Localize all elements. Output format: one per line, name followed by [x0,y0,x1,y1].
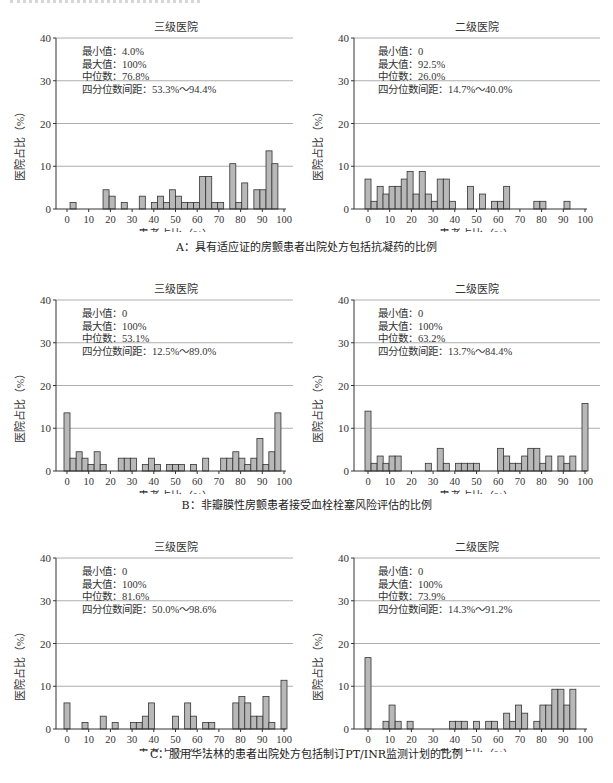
histogram-bar [139,196,145,209]
y-tick-label: 20 [338,118,350,130]
histogram-bar [166,465,172,471]
chart-b-tertiary: 三级医院最小值：0最大值：100%中位数：53.1%四分位数间距：12.5%～8… [0,262,310,494]
histogram-bar [245,465,251,471]
histogram-bar [425,194,431,209]
histogram-bar [389,186,395,209]
x-tick-label: 0 [64,734,69,745]
histogram-bar [176,196,182,209]
stat-label: 最小值：0 [378,307,423,319]
y-tick-label: 10 [338,422,350,434]
stat-label: 中位数：26.0% [378,70,445,82]
histogram-bar [395,721,401,729]
histogram-bar [251,458,257,471]
histogram-bar [377,456,383,471]
x-tick-label: 50 [170,476,181,487]
stat-label: 最大值：100% [82,578,147,590]
y-tick-label: 0 [344,203,350,215]
histogram-bar [64,413,70,471]
histogram-bar [491,721,497,729]
y-tick-label: 40 [40,294,52,306]
caption-b: B：非瓣膜性房颤患者接受血栓栓塞风险评估的比例 [0,496,613,512]
histogram-bar [179,465,185,471]
histogram-bar [365,179,371,209]
histogram-bar [221,458,227,471]
x-tick-label: 30 [428,734,439,745]
histogram-bar [431,201,437,209]
x-tick-label: 60 [192,476,203,487]
histogram-bar [558,456,564,471]
stat-label: 中位数：73.9% [378,590,445,602]
histogram-bar [212,203,218,209]
histogram-bar [522,713,528,729]
histogram-bar [245,703,251,729]
panel-title: 三级医院 [154,20,198,33]
x-tick-label: 100 [577,214,593,225]
x-tick-label: 70 [214,476,225,487]
histogram-bar [82,458,88,471]
histogram-bar [564,463,570,471]
histogram-bar [504,456,510,471]
x-axis-label: 患者占比（%） [138,227,213,232]
histogram-bar [371,463,377,471]
x-tick-label: 40 [149,214,160,225]
histogram-bar [185,703,191,729]
histogram-bar [163,203,169,209]
histogram-bar [534,201,540,209]
x-tick-label: 80 [235,734,246,745]
y-tick-label: 0 [46,465,52,477]
x-tick-label: 90 [257,476,268,487]
x-tick-label: 60 [192,734,203,745]
histogram-bar [407,721,413,729]
histogram-bar [151,203,157,209]
y-tick-label: 30 [40,337,52,349]
histogram-bar [371,201,377,209]
histogram-bar [546,456,552,471]
x-tick-label: 60 [192,214,203,225]
histogram-bar [510,721,516,729]
histogram-bar [582,403,588,471]
x-tick-label: 80 [235,214,246,225]
histogram-bar [103,190,109,209]
x-tick-label: 30 [127,476,138,487]
histogram-bar [94,452,100,471]
histogram-bar [148,703,154,729]
histogram-bar [395,456,401,471]
histogram-bar [437,179,443,209]
histogram-bar [281,680,287,729]
x-tick-label: 70 [214,734,225,745]
histogram-bar [540,463,546,471]
x-axis-label: 患者占比（%） [439,227,514,232]
histogram-bar [534,448,540,471]
histogram-bar [365,411,371,471]
histogram-bar [100,465,106,471]
y-tick-label: 30 [338,595,350,607]
histogram-bar [570,456,576,471]
x-tick-label: 10 [384,214,395,225]
histogram-bar [473,721,479,729]
y-axis-label: 医院占比（%） [311,368,324,443]
histogram-bar [383,194,389,209]
histogram-bar [437,448,443,471]
histogram-bar [486,721,492,729]
histogram-bar [443,179,449,209]
y-tick-label: 10 [40,680,52,692]
y-axis-label: 医院占比（%） [13,368,26,443]
x-tick-label: 40 [450,734,461,745]
x-tick-label: 40 [149,734,160,745]
histogram-bar [263,697,269,729]
x-tick-label: 70 [515,476,526,487]
y-tick-label: 20 [338,638,350,650]
histogram-bar [540,705,546,729]
histogram-bar [218,203,224,209]
x-tick-label: 100 [276,214,292,225]
stat-label: 最小值：0 [82,565,127,577]
histogram-bar [467,463,473,471]
x-tick-label: 40 [149,476,160,487]
histogram-bar [516,705,522,729]
y-axis-label: 医院占比（%） [311,106,324,181]
histogram-bar [552,689,558,729]
histogram-bar [510,463,516,471]
histogram-bar [169,190,175,209]
histogram-bar [266,151,272,209]
histogram-bar [64,703,70,729]
